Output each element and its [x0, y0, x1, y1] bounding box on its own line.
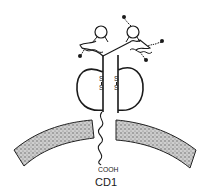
membrane-right: [116, 120, 196, 168]
molecule-label: CD1: [95, 176, 117, 188]
disulfide-s-2: S: [99, 85, 104, 91]
glycan-left: [81, 50, 84, 55]
beta2m-domain-right: [118, 55, 143, 113]
disulfide-s-3: S: [114, 76, 119, 82]
loop-right: [127, 26, 139, 38]
glycan-dot-top: [122, 15, 126, 19]
glycan-top: [124, 18, 131, 26]
disulfide-s-1: S: [99, 76, 104, 82]
membrane-left: [14, 120, 94, 166]
glycan-dot-left: [78, 54, 82, 58]
cooh-label: COOH: [98, 165, 118, 174]
glycan-lower-right: [140, 52, 145, 59]
disulfide-s-4: S: [114, 85, 119, 91]
glycan-dot-right: [160, 39, 164, 43]
loop-left: [95, 26, 107, 38]
disulfide-right: S S: [114, 76, 119, 91]
transmembrane-tail: [98, 112, 103, 165]
disulfide-left: S S: [99, 76, 104, 91]
glycan-right: [148, 42, 162, 46]
glycan-dot-lower-right: [144, 58, 148, 62]
alpha1-domain: [80, 40, 150, 56]
